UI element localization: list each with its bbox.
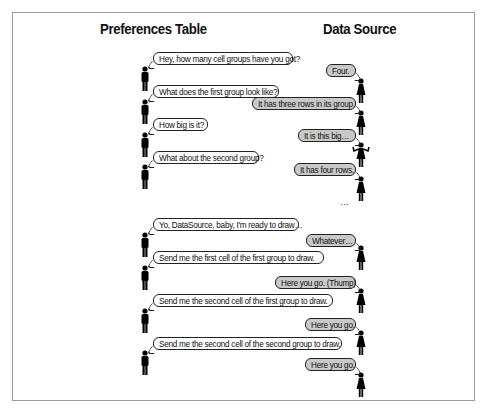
- speech-bubble-preferences-table: Send me the second cell of the first gro…: [153, 294, 333, 307]
- speech-bubble-preferences-table: What about the second group?: [153, 151, 259, 164]
- speech-bubble-data-source: It has three rows in its group.: [252, 97, 356, 110]
- preferences-table-figure-icon: [140, 132, 150, 158]
- preferences-table-figure-icon: [140, 66, 150, 92]
- speech-bubble-preferences-table: Send me the second cell of the second gr…: [153, 337, 342, 350]
- speech-bubble-data-source: It has four rows.: [294, 163, 356, 176]
- speech-bubble-preferences-table: Yo, DataSource, baby, I'm ready to draw…: [153, 218, 299, 231]
- data-source-title: Data Source: [323, 20, 396, 37]
- speech-bubble-preferences-table: Hey, how many cell groups have you got?: [153, 52, 293, 65]
- preferences-table-figure-icon: [140, 265, 150, 291]
- speech-bubble-data-source: Four.: [326, 64, 356, 77]
- speech-bubble-data-source: Here you go.: [305, 358, 356, 371]
- data-source-figure-icon: [356, 372, 366, 398]
- speech-bubble-data-source: Here you go.: [305, 318, 356, 331]
- continuation-ellipsis: …: [340, 197, 350, 207]
- speech-bubble-preferences-table: Send me the first cell of the first grou…: [153, 251, 324, 264]
- speech-bubble-data-source: Whatever…: [306, 234, 356, 247]
- speech-bubble-data-source: Here you go. (Thump): [275, 276, 356, 289]
- speech-bubble-preferences-table: How big is it?: [153, 118, 208, 131]
- preferences-table-title: Preferences Table: [100, 20, 207, 37]
- preferences-table-figure-icon: [140, 308, 150, 334]
- preferences-table-figure-icon: [140, 232, 150, 258]
- speech-bubble-data-source: It is this big…: [298, 129, 356, 142]
- preferences-table-figure-icon: [140, 99, 150, 125]
